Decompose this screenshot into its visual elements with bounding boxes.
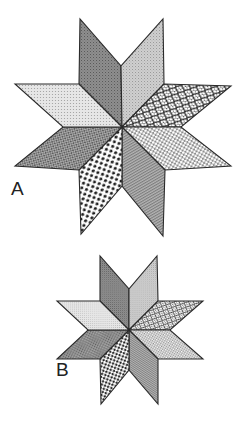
figure-label-b: B <box>56 360 69 379</box>
star-b <box>57 256 203 404</box>
quilt-star-figure <box>0 0 245 424</box>
figure-label-a: A <box>11 179 24 198</box>
star-a <box>15 19 231 236</box>
